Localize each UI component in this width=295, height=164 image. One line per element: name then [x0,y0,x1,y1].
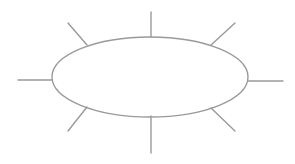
spider-diagram [0,0,295,164]
spoke-top-right [211,23,235,45]
spoke-top-left [68,23,87,45]
spoke-bottom-right [211,108,235,131]
diagram-canvas [0,0,295,164]
spoke-bottom-left [68,107,87,131]
center-ellipse [52,37,248,117]
spokes-group [18,12,283,153]
